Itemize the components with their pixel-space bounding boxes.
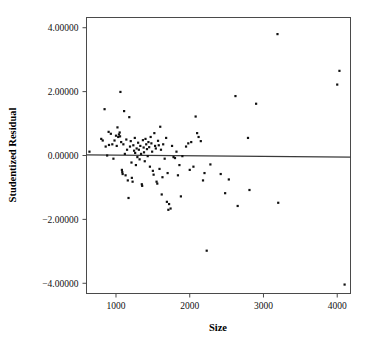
data-point	[344, 283, 346, 285]
data-point	[209, 163, 211, 165]
data-point	[119, 135, 121, 137]
data-point	[108, 144, 110, 146]
data-point	[195, 115, 197, 117]
data-point	[138, 149, 140, 151]
data-point	[336, 83, 338, 85]
data-point	[228, 178, 230, 180]
data-point	[200, 140, 202, 142]
data-point	[237, 205, 239, 207]
data-point	[147, 155, 149, 157]
data-point	[108, 131, 110, 133]
data-point	[206, 250, 208, 252]
x-axis-ticks: 1000200030004000	[106, 294, 346, 311]
data-point	[161, 193, 163, 195]
data-point	[234, 95, 236, 97]
data-point	[133, 150, 135, 152]
scatter-plot-figure: 4.000002.000000.00000−2.00000−4.00000 10…	[0, 0, 366, 344]
data-point	[155, 181, 157, 183]
data-point	[127, 179, 129, 181]
data-point	[115, 135, 117, 137]
data-point	[119, 131, 121, 133]
data-point	[164, 158, 166, 160]
data-point	[187, 142, 189, 144]
data-point	[136, 147, 138, 149]
data-point	[157, 140, 159, 142]
data-point	[152, 170, 154, 172]
data-point	[153, 132, 155, 134]
data-point	[103, 108, 105, 110]
x-tick-label: 4000	[328, 301, 347, 311]
data-point	[189, 169, 191, 171]
data-point	[178, 164, 180, 166]
x-tick-label: 2000	[180, 301, 199, 311]
y-axis-title: Studentized Residual	[7, 108, 18, 203]
data-point	[203, 172, 205, 174]
data-point	[131, 177, 133, 179]
data-point	[158, 168, 160, 170]
data-point	[158, 144, 160, 146]
data-point	[145, 143, 147, 145]
data-point	[125, 138, 127, 140]
data-point	[169, 207, 171, 209]
data-point	[135, 164, 137, 166]
data-point	[149, 166, 151, 168]
data-point	[162, 143, 164, 145]
data-point	[140, 153, 142, 155]
data-point	[167, 172, 169, 174]
data-point	[116, 126, 118, 128]
data-point	[129, 145, 131, 147]
y-tick-label: −2.00000	[42, 215, 78, 225]
data-point	[146, 148, 148, 150]
data-point	[171, 145, 173, 147]
data-point	[147, 141, 149, 143]
data-point	[185, 145, 187, 147]
data-point	[159, 126, 161, 128]
data-point	[122, 143, 124, 145]
data-point	[127, 197, 129, 199]
y-axis-ticks: 4.000002.000000.00000−2.00000−4.00000	[42, 23, 86, 289]
data-point	[167, 209, 169, 211]
data-point	[141, 185, 143, 187]
data-point	[220, 173, 222, 175]
data-point	[143, 146, 145, 148]
data-point	[128, 116, 130, 118]
data-point	[248, 189, 250, 191]
data-point	[121, 171, 123, 173]
data-point	[113, 139, 115, 141]
data-point	[118, 133, 120, 135]
data-point	[111, 143, 113, 145]
data-point	[177, 174, 179, 176]
data-point	[144, 138, 146, 140]
data-point	[143, 151, 145, 153]
y-tick-label: 0.00000	[48, 151, 79, 161]
data-point	[106, 154, 108, 156]
data-point	[144, 160, 146, 162]
data-point	[148, 146, 150, 148]
data-point	[110, 133, 112, 135]
data-point	[338, 70, 340, 72]
data-point	[190, 141, 192, 143]
data-point	[165, 137, 167, 139]
data-point	[132, 144, 134, 146]
data-point	[137, 142, 139, 144]
data-point	[126, 149, 128, 151]
data-point	[150, 136, 152, 138]
data-point	[138, 158, 140, 160]
data-point	[130, 140, 132, 142]
data-point	[124, 153, 126, 155]
data-point	[181, 155, 183, 157]
data-point	[153, 174, 155, 176]
data-point	[130, 161, 132, 163]
data-point	[134, 137, 136, 139]
data-point	[277, 202, 279, 204]
data-point	[192, 166, 194, 168]
x-tick-label: 3000	[254, 301, 273, 311]
data-point	[202, 179, 204, 181]
data-point	[175, 151, 177, 153]
data-point	[155, 147, 157, 149]
data-point	[247, 137, 249, 139]
x-tick-label: 1000	[106, 301, 125, 311]
y-tick-label: −4.00000	[42, 279, 78, 289]
y-tick-label: 4.00000	[48, 23, 79, 33]
data-point	[121, 169, 123, 171]
